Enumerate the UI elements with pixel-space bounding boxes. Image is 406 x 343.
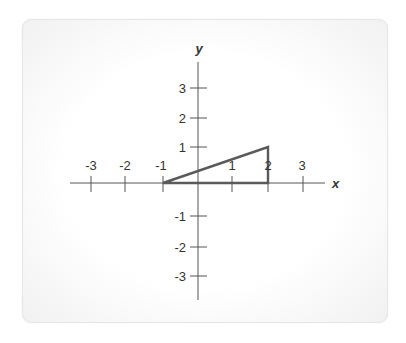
coordinate-plane: -3 -2 -1 1 2 3 3 2 1 -1 -2 -3 x y: [0, 0, 406, 343]
y-tick-label: -3: [174, 269, 186, 284]
y-tick-label: -1: [174, 209, 186, 224]
y-axis-label: y: [194, 41, 203, 56]
x-tick-label: 3: [298, 158, 305, 173]
x-tick-label: -1: [155, 158, 167, 173]
y-tick-label: 1: [179, 140, 186, 155]
y-tick-label: 3: [179, 81, 186, 96]
x-tick-label: -3: [85, 158, 97, 173]
x-tick-label: 1: [228, 158, 235, 173]
x-tick-label: -2: [119, 158, 131, 173]
y-tick-label: 2: [179, 111, 186, 126]
x-tick-label: 2: [264, 158, 271, 173]
x-axis-label: x: [331, 176, 340, 191]
y-tick-label: -2: [174, 240, 186, 255]
